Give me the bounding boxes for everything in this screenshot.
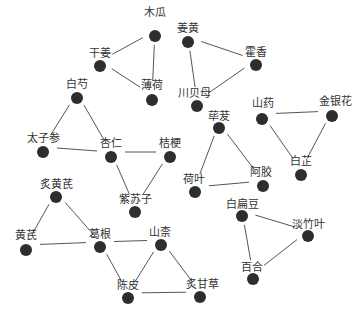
node-danzhuye: 淡竹叶 <box>292 217 325 242</box>
node-dot <box>149 30 161 42</box>
node-dot <box>326 110 338 122</box>
network-svg: 木瓜干姜薄荷姜黄霍香川贝母白芍太子参杏仁桔梗紫苏子荜茇荷叶阿胶山药金银花白芷炙黄… <box>0 0 362 316</box>
node-dot <box>194 291 206 303</box>
node-gegen: 葛根 <box>89 227 111 253</box>
node-dot <box>213 122 225 134</box>
node-dot <box>191 100 203 112</box>
node-dot <box>295 169 307 181</box>
edge-baibiandou-danzhuye <box>255 215 294 227</box>
edge-ganjiang-mugua <box>112 38 142 55</box>
node-shanyao: 山药 <box>252 97 274 125</box>
node-dot <box>50 191 62 203</box>
node-label: 阿胶 <box>250 165 272 179</box>
node-dot <box>256 113 268 125</box>
node-label: 紫苏子 <box>119 193 152 206</box>
node-label: 杏仁 <box>100 137 122 150</box>
edge-mugua-bohe <box>153 45 155 81</box>
node-label: 淡竹叶 <box>292 217 325 231</box>
herb-network-diagram: 木瓜干姜薄荷姜黄霍香川贝母白芍太子参杏仁桔梗紫苏子荜茇荷叶阿胶山药金银花白芷炙黄… <box>0 0 362 316</box>
node-dot <box>247 273 259 285</box>
edge-baibiandou-baihe <box>244 225 250 260</box>
edge-gegen-shannai <box>114 241 147 242</box>
node-bohe: 薄荷 <box>141 78 163 106</box>
node-jiegeng: 桔梗 <box>159 136 181 163</box>
node-baibiandou: 白扁豆 <box>226 197 259 222</box>
node-label: 白扁豆 <box>226 197 259 211</box>
node-label: 荜茇 <box>208 110 230 123</box>
node-dot <box>182 36 194 48</box>
node-label: 霍香 <box>245 46 267 59</box>
edge-huangqi-gegen <box>40 243 86 245</box>
node-chenpi: 陈皮 <box>117 278 139 304</box>
node-dot <box>94 60 106 72</box>
node-label: 炙甘草 <box>186 277 219 291</box>
edge-xingren-zisuzi <box>117 165 130 194</box>
edge-jinyinhua-baizhi <box>308 123 326 157</box>
node-label: 干姜 <box>89 46 111 60</box>
node-dot <box>94 241 106 253</box>
node-ganjiang: 干姜 <box>89 46 111 72</box>
edge-baishao-xingren <box>84 105 104 140</box>
node-dot <box>129 206 141 218</box>
node-baizhi: 白芷 <box>290 154 312 181</box>
node-dot <box>250 59 262 71</box>
edge-shanyao-jinyinhua <box>276 112 318 114</box>
node-label: 白芍 <box>66 77 88 91</box>
node-label: 川贝母 <box>178 87 211 100</box>
edge-jiegeng-zisuzi <box>143 164 163 195</box>
node-huoxiang: 霍香 <box>245 46 267 71</box>
node-label: 白芷 <box>290 154 312 168</box>
node-heye: 荷叶 <box>183 173 205 198</box>
node-label: 陈皮 <box>117 278 139 292</box>
node-dot <box>146 94 158 106</box>
edge-jianghuang-chuanbeimu <box>190 51 195 87</box>
node-dot <box>164 151 176 163</box>
edge-chuanbeimu-huoxiang <box>209 68 245 93</box>
edge-ganjiang-bohe <box>112 69 141 88</box>
nodes-layer: 木瓜干姜薄荷姜黄霍香川贝母白芍太子参杏仁桔梗紫苏子荜茇荷叶阿胶山药金银花白芷炙黄… <box>15 6 352 304</box>
edge-bibo-ejiao <box>228 134 255 170</box>
edge-gegen-chenpi <box>107 254 122 280</box>
edge-zhihuangqi-gegen <box>65 203 91 232</box>
node-taizishen: 太子参 <box>27 131 60 158</box>
node-shannai: 山柰 <box>149 225 171 251</box>
node-mugua: 木瓜 <box>144 6 166 42</box>
node-label: 桔梗 <box>159 136 181 150</box>
edge-bibo-heye <box>200 136 214 174</box>
node-zhigancao: 炙甘草 <box>186 277 219 303</box>
node-dot <box>105 151 117 163</box>
edge-baishao-taizishen <box>51 105 70 135</box>
node-label: 山药 <box>252 97 274 110</box>
edge-taizishen-xingren <box>57 148 97 151</box>
node-dot <box>20 244 32 256</box>
node-label: 荷叶 <box>183 173 205 186</box>
node-dot <box>155 239 167 251</box>
node-dot <box>236 210 248 222</box>
node-xingren: 杏仁 <box>100 137 122 163</box>
edge-baihe-danzhuye <box>264 240 297 266</box>
node-chuanbeimu: 川贝母 <box>178 87 211 112</box>
node-zhihuangqi: 炙黄芪 <box>40 177 73 203</box>
node-label: 姜黄 <box>177 21 199 35</box>
node-dot <box>122 292 134 304</box>
node-ejiao: 阿胶 <box>250 165 272 192</box>
node-baihe: 百合 <box>241 260 263 285</box>
edge-shannai-chenpi <box>135 252 153 281</box>
node-label: 黄芪 <box>15 228 37 242</box>
node-dot <box>257 180 269 192</box>
node-dot <box>71 92 83 104</box>
edge-jianghuang-huoxiang <box>201 42 242 56</box>
node-label: 百合 <box>241 260 263 274</box>
edge-chenpi-zhigancao <box>142 292 186 293</box>
edge-shannai-zhigancao <box>169 251 191 281</box>
node-dot <box>37 146 49 158</box>
node-label: 葛根 <box>89 227 111 241</box>
node-label: 金银花 <box>319 94 352 108</box>
edges-layer <box>33 38 326 293</box>
node-jianghuang: 姜黄 <box>177 21 199 48</box>
node-dot <box>302 230 314 242</box>
edge-shanyao-baizhi <box>270 126 293 159</box>
node-label: 薄荷 <box>141 78 163 92</box>
node-label: 山柰 <box>149 225 171 239</box>
node-jinyinhua: 金银花 <box>319 94 352 122</box>
